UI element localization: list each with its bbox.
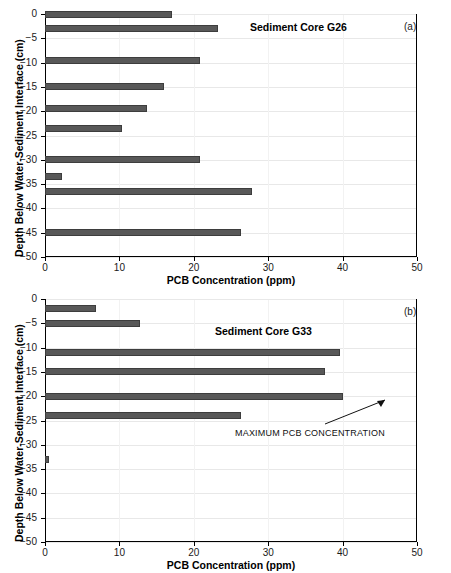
y-tick-label: −30 [0, 155, 37, 165]
gridline [343, 15, 344, 256]
pcb-sediment-core-figure: Depth Below Water-Sediment Interface (cm… [0, 0, 451, 573]
y-tick-label: −35 [0, 179, 37, 189]
y-tick-label: −45 [0, 228, 37, 238]
plot-area-a [45, 14, 417, 257]
y-tick-mark [41, 184, 45, 185]
bar [45, 156, 200, 163]
x-tick-label: 30 [253, 263, 283, 273]
gridline [46, 208, 416, 209]
y-tick-label: −10 [0, 58, 37, 68]
bar [45, 229, 241, 236]
y-tick-label: −20 [0, 106, 37, 116]
bar [45, 11, 172, 18]
panel-a-title: Sediment Core G26 [250, 21, 347, 33]
y-tick-label: −15 [0, 82, 37, 92]
x-tick-mark [45, 257, 46, 261]
x-tick-mark [268, 257, 269, 261]
y-tick-label: 0 [0, 9, 37, 19]
y-tick-mark [41, 208, 45, 209]
panel-b: Depth Below Water-Sediment Interface (cm… [0, 285, 451, 573]
bar [45, 125, 122, 132]
bar [45, 57, 200, 64]
y-tick-label: −25 [0, 131, 37, 141]
x-tick-label: 50 [402, 263, 432, 273]
x-tick-label: 20 [179, 263, 209, 273]
gridline [46, 184, 416, 185]
gridline [46, 136, 416, 137]
x-tick-mark [343, 257, 344, 261]
x-tick-label: 0 [30, 263, 60, 273]
bar [45, 173, 62, 180]
y-tick-label: −50 [0, 252, 37, 262]
y-tick-label: −5 [0, 33, 37, 43]
gridline [268, 15, 269, 256]
bar [45, 83, 164, 90]
x-axis-title-b: PCB Concentration (ppm) [45, 559, 417, 571]
maximum-concentration-label: MAXIMUM PCB CONCENTRATION [235, 428, 385, 438]
bar [45, 188, 252, 195]
bar [45, 105, 147, 112]
gridline [119, 15, 120, 256]
y-axis-title-a: Depth Below Water-Sediment Interface (cm… [13, 39, 25, 257]
x-tick-mark [194, 257, 195, 261]
x-tick-label: 40 [328, 263, 358, 273]
y-tick-mark [41, 136, 45, 137]
gridline [194, 15, 195, 256]
x-tick-label: 10 [104, 263, 134, 273]
bar [45, 25, 218, 32]
panel-a: Depth Below Water-Sediment Interface (cm… [0, 0, 451, 288]
panel-a-letter: (a) [404, 21, 416, 32]
x-tick-mark [417, 257, 418, 261]
gridline [46, 257, 416, 258]
y-tick-label: −40 [0, 203, 37, 213]
gridline [46, 38, 416, 39]
x-tick-mark [119, 257, 120, 261]
y-tick-mark [41, 38, 45, 39]
